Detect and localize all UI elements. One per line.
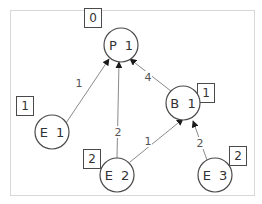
node-badge-value: 0 xyxy=(89,11,97,25)
node-badge-value: 1 xyxy=(21,99,29,113)
node-label: E 1 xyxy=(40,125,67,140)
node-label: P 1 xyxy=(109,38,135,53)
edge-weight-e2-p1: 2 xyxy=(115,126,122,139)
edge-weight-e2-b1: 1 xyxy=(145,135,152,148)
node-badge-value: 2 xyxy=(234,149,242,163)
edge-weight-b1-p1: 4 xyxy=(145,71,152,84)
graph-canvas: 1 2 4 1 2 0 P 1 1 E 1 1 B 1 2 E 2 2 E 3 xyxy=(0,0,262,204)
node-label: B 1 xyxy=(170,96,197,111)
node-label: E 2 xyxy=(105,168,132,183)
node-badge-value: 2 xyxy=(88,152,96,166)
edge-weight-e1-p1: 1 xyxy=(76,77,83,90)
edge-weight-e3-b1: 2 xyxy=(197,137,204,150)
node-badge-value: 1 xyxy=(202,86,210,100)
node-label: E 3 xyxy=(203,168,230,183)
